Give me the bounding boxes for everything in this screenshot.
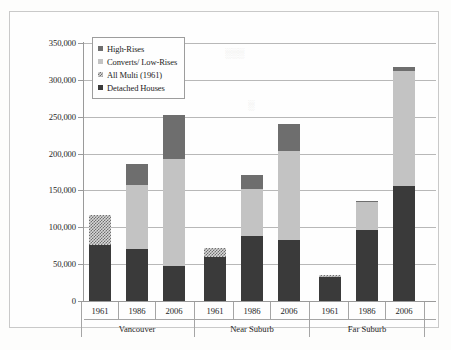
bar-segment-all-multi-1961 xyxy=(204,248,226,257)
y-tick-mark xyxy=(78,301,84,302)
y-tick-mark xyxy=(78,117,84,118)
x-axis-year-label: 2006 xyxy=(384,303,424,319)
bar-segment-detached-houses xyxy=(393,186,415,301)
bar-vancouver-1986 xyxy=(126,164,148,301)
y-axis-tick-label: 100,000 xyxy=(49,222,76,232)
y-tick-mark xyxy=(78,154,84,155)
bar-segment-converts-low-rises xyxy=(278,151,300,240)
x-axis-group-label: Vancouver xyxy=(92,321,182,337)
x-axis-group-label: Near Suburb xyxy=(207,321,297,337)
bar-segment-detached-houses xyxy=(278,240,300,301)
legend-item: Converts/ Low-Rises xyxy=(98,55,177,68)
x-axis-year-label: 1986 xyxy=(117,303,157,319)
x-axis-year-label: 1986 xyxy=(232,303,272,319)
category-divider xyxy=(270,302,271,319)
category-divider xyxy=(194,302,195,337)
x-axis-group-label: Far Suburb xyxy=(322,321,412,337)
bar-near-suburb-2006 xyxy=(278,124,300,301)
y-axis-tick-label: 150,000 xyxy=(49,185,76,195)
y-axis-tick-label: 350,000 xyxy=(49,38,76,48)
bar-segment-high-rises xyxy=(278,124,300,151)
x-axis-year-label: 2006 xyxy=(154,303,194,319)
category-divider xyxy=(424,302,425,337)
bar-segment-high-rises xyxy=(241,175,263,189)
y-tick-mark xyxy=(78,264,84,265)
x-axis-year-label: 1961 xyxy=(310,303,350,319)
y-axis-tick-label: 300,000 xyxy=(49,75,76,85)
y-axis-tick-label: 250,000 xyxy=(49,112,76,122)
bar-segment-high-rises xyxy=(126,164,148,185)
legend-item: Detached Houses xyxy=(98,81,177,94)
x-axis-year-label: 1961 xyxy=(195,303,235,319)
legend-item-label: Converts/ Low-Rises xyxy=(107,57,177,67)
legend-item: All Multi (1961) xyxy=(98,68,177,81)
bar-segment-detached-houses xyxy=(241,236,263,301)
bar-segment-converts-low-rises xyxy=(356,202,378,230)
bar-far-suburb-2006 xyxy=(393,67,415,301)
chart-frame: 350,000300,000250,000200,000150,000100,0… xyxy=(9,11,439,328)
y-tick-mark xyxy=(78,80,84,81)
bar-segment-detached-houses xyxy=(319,277,341,301)
y-axis-labels: 350,000300,000250,000200,000150,000100,0… xyxy=(10,12,76,350)
category-row-divider xyxy=(84,319,436,320)
category-divider xyxy=(309,302,310,337)
legend-item-label: Detached Houses xyxy=(107,83,165,93)
bar-segment-all-multi-1961 xyxy=(89,215,111,245)
legend-swatch-icon xyxy=(98,59,103,64)
bar-near-suburb-1961 xyxy=(204,248,226,301)
y-axis-tick-label: 0 xyxy=(72,296,76,306)
y-tick-mark xyxy=(78,43,84,44)
y-axis-tick-label: 200,000 xyxy=(49,149,76,159)
chart-legend: High-RisesConverts/ Low-RisesAll Multi (… xyxy=(92,37,185,99)
x-axis-year-label: 1961 xyxy=(80,303,120,319)
category-divider xyxy=(118,302,119,319)
bar-segment-high-rises xyxy=(163,115,185,160)
bar-far-suburb-1986 xyxy=(356,201,378,301)
category-divider xyxy=(233,302,234,319)
legend-item-label: All Multi (1961) xyxy=(107,70,162,80)
y-tick-mark xyxy=(78,190,84,191)
category-divider xyxy=(81,302,82,337)
bar-segment-detached-houses xyxy=(356,230,378,301)
figure-root: 350,000300,000250,000200,000150,000100,0… xyxy=(0,0,451,350)
bar-segment-detached-houses xyxy=(89,245,111,301)
legend-swatch-icon xyxy=(98,72,103,77)
category-divider xyxy=(385,302,386,319)
legend-swatch-icon xyxy=(98,85,103,90)
bar-segment-detached-houses xyxy=(204,257,226,301)
y-tick-mark xyxy=(78,227,84,228)
bar-vancouver-2006 xyxy=(163,115,185,301)
gridline xyxy=(84,154,436,155)
legend-swatch-icon xyxy=(98,46,103,51)
category-axis: 196119862006196119862006196119862006Vanc… xyxy=(84,302,436,340)
bar-segment-detached-houses xyxy=(126,249,148,301)
category-divider xyxy=(155,302,156,319)
bar-far-suburb-1961 xyxy=(319,275,341,301)
bar-segment-converts-low-rises xyxy=(163,159,185,265)
gridline xyxy=(84,117,436,118)
bar-segment-converts-low-rises xyxy=(241,189,263,236)
legend-item: High-Rises xyxy=(98,42,177,55)
bar-segment-converts-low-rises xyxy=(393,71,415,186)
bar-segment-converts-low-rises xyxy=(126,185,148,249)
legend-item-label: High-Rises xyxy=(107,44,144,54)
bar-vancouver-1961 xyxy=(89,215,111,301)
bar-near-suburb-1986 xyxy=(241,175,263,301)
category-divider xyxy=(348,302,349,319)
y-axis-tick-label: 50,000 xyxy=(53,259,76,269)
x-axis-year-label: 1986 xyxy=(347,303,387,319)
bar-segment-detached-houses xyxy=(163,266,185,301)
x-axis-year-label: 2006 xyxy=(269,303,309,319)
